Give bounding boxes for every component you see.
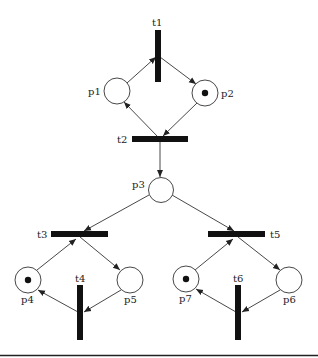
transition-t1 xyxy=(155,30,161,82)
place-p5 xyxy=(117,267,143,293)
arc-t6-p7 xyxy=(196,289,236,312)
token-p7 xyxy=(183,276,189,282)
label-p3: p3 xyxy=(132,179,145,190)
transition-t3 xyxy=(51,231,108,237)
arc-p6-t6 xyxy=(242,290,280,312)
arc-t3-p5 xyxy=(80,237,120,270)
arc-t5-p6 xyxy=(238,237,280,270)
place-p6 xyxy=(276,267,302,293)
label-p2: p2 xyxy=(221,88,234,99)
transition-t4 xyxy=(77,285,83,340)
label-p6: p6 xyxy=(283,294,296,305)
place-p3 xyxy=(149,178,174,203)
arc-t2-p1 xyxy=(124,102,158,137)
arc-p3-t3 xyxy=(84,195,149,231)
label-t4: t4 xyxy=(75,273,85,284)
arc-p5-t4 xyxy=(84,290,121,312)
token-p4 xyxy=(25,277,31,283)
arc-p7-t5 xyxy=(195,239,233,270)
arc-p1-t1 xyxy=(127,57,156,83)
label-p4: p4 xyxy=(21,294,34,305)
transition-t2 xyxy=(132,136,188,142)
transition-t5 xyxy=(208,231,265,237)
label-p7: p7 xyxy=(179,293,192,304)
label-t2: t2 xyxy=(117,134,127,145)
label-p1: p1 xyxy=(88,86,101,97)
arc-p3-t5 xyxy=(172,195,234,231)
arc-p2-t2 xyxy=(163,103,197,136)
token-p2 xyxy=(202,90,208,96)
arc-p4-t3 xyxy=(37,239,76,270)
label-t5: t5 xyxy=(270,229,280,240)
place-p1 xyxy=(104,78,130,104)
transition-t6 xyxy=(235,285,241,340)
petri-net-diagram: t1 t2 t3 t4 t5 t6 p1 p2 p3 p4 p5 p6 p7 xyxy=(0,0,318,358)
label-t3: t3 xyxy=(37,229,47,240)
label-t6: t6 xyxy=(233,273,243,284)
label-p5: p5 xyxy=(124,294,137,305)
arc-t1-p2 xyxy=(160,57,196,84)
label-t1: t1 xyxy=(152,17,162,28)
arc-t4-p4 xyxy=(38,290,78,312)
